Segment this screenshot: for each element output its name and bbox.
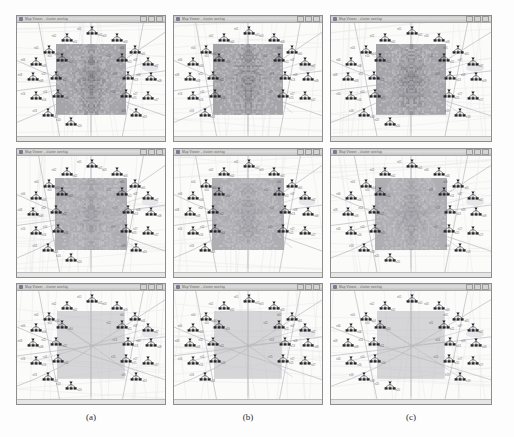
node-cluster-sublabel: n14: [43, 91, 47, 94]
node-cluster-sublabel: n18: [33, 374, 37, 377]
node-cluster-sublabel: n12: [359, 73, 363, 76]
window-controls[interactable]: [297, 16, 320, 22]
node-cluster-sublabel: n08: [333, 209, 337, 212]
app-icon: [333, 150, 337, 154]
cluster-tree-icon: [285, 179, 299, 191]
node-cluster-sublabel: n10: [365, 55, 369, 58]
cluster-tree-icon: [49, 71, 63, 83]
node-cluster-sublabel: n10: [47, 322, 51, 325]
node-cluster-label: n09: [157, 80, 161, 83]
node-cluster-sublabel: n15: [111, 91, 115, 94]
node-cluster-label: n14: [381, 362, 385, 365]
cluster-tree-icon: [469, 72, 483, 84]
map-canvas[interactable]: n01n01n02n02n03n03n04n04n05n05n06n06n07n…: [174, 23, 322, 141]
maximize-icon[interactable]: [474, 149, 481, 155]
node-cluster-sublabel: n16: [336, 228, 340, 231]
window-controls[interactable]: [140, 16, 163, 22]
cluster-tree-icon: [29, 356, 43, 368]
cluster-tree-icon: [357, 372, 371, 384]
node-cluster-label: n18: [211, 251, 215, 254]
window-controls[interactable]: [466, 284, 489, 290]
node-cluster-sublabel: n07: [290, 325, 294, 328]
maximize-icon[interactable]: [148, 16, 155, 22]
cluster-tree-icon: [115, 187, 129, 199]
cluster-tree-icon: [378, 301, 392, 313]
column-caption-c: (c): [330, 412, 492, 422]
window-controls[interactable]: [297, 284, 320, 290]
minimize-icon[interactable]: [466, 284, 473, 290]
cluster-tree-icon: [437, 53, 451, 65]
app-icon: [19, 17, 23, 21]
map-canvas[interactable]: n01n01n02n02n03n03n04n04n05n05n06n06n07n…: [331, 156, 491, 277]
map-canvas[interactable]: n01n01n02n02n03n03n04n04n05n05n06n06n07n…: [331, 23, 491, 141]
close-icon[interactable]: [156, 284, 163, 290]
minimize-icon[interactable]: [297, 16, 304, 22]
cluster-tree-icon: [41, 372, 55, 384]
map-canvas[interactable]: n01n01n02n02n03n03n04n04n05n05n06n06n07n…: [174, 156, 322, 277]
close-icon[interactable]: [313, 284, 320, 290]
minimize-icon[interactable]: [466, 16, 473, 22]
node-cluster-sublabel: n15: [268, 226, 272, 229]
cluster-tree-icon: [121, 205, 135, 217]
node-cluster-label: n11: [285, 195, 289, 198]
minimize-icon[interactable]: [140, 284, 147, 290]
cluster-tree-icon: [242, 26, 256, 38]
maximize-icon[interactable]: [474, 284, 481, 290]
maximize-icon[interactable]: [305, 284, 312, 290]
cluster-tree-icon: [378, 33, 392, 45]
maximize-icon[interactable]: [148, 284, 155, 290]
map-canvas[interactable]: n01n01n02n02n03n03n04n04n05n05n06n06n07n…: [174, 291, 322, 404]
node-cluster-label: n19: [142, 116, 146, 119]
minimize-icon[interactable]: [297, 149, 304, 155]
window-title: Map Viewer - cluster overlay: [25, 285, 140, 289]
node-cluster-sublabel: n15: [434, 356, 438, 359]
window-controls[interactable]: [140, 284, 163, 290]
screenshot-panel-r3c1: Map Viewer - cluster overlayn01n01n02n02…: [16, 283, 166, 405]
minimize-icon[interactable]: [140, 149, 147, 155]
map-canvas[interactable]: n01n01n02n02n03n03n04n04n05n05n06n06n07n…: [331, 291, 491, 404]
close-icon[interactable]: [482, 284, 489, 290]
window-controls[interactable]: [466, 149, 489, 155]
minimize-icon[interactable]: [466, 149, 473, 155]
window-controls[interactable]: [140, 149, 163, 155]
node-cluster-sublabel: n14: [43, 356, 47, 359]
node-cluster-sublabel: n02: [209, 35, 213, 38]
cluster-tree-icon: [60, 33, 74, 45]
close-icon[interactable]: [313, 16, 320, 22]
node-cluster-label: n05: [298, 187, 302, 190]
node-cluster-label: n09: [157, 215, 161, 218]
node-cluster-sublabel: n06: [21, 59, 25, 62]
node-cluster-label: n20: [77, 389, 81, 392]
node-cluster-label: n14: [221, 97, 225, 100]
node-cluster-label: n11: [128, 328, 132, 331]
node-cluster-label: n09: [482, 346, 486, 349]
cluster-tree-icon: [442, 354, 456, 366]
map-canvas[interactable]: n01n01n02n02n03n03n04n04n05n05n06n06n07n…: [17, 291, 165, 404]
app-icon: [176, 285, 180, 289]
maximize-icon[interactable]: [305, 16, 312, 22]
close-icon[interactable]: [156, 149, 163, 155]
node-cluster-sublabel: n09: [293, 74, 297, 77]
maximize-icon[interactable]: [305, 149, 312, 155]
close-icon[interactable]: [482, 16, 489, 22]
map-canvas[interactable]: n01n01n02n02n03n03n04n04n05n05n06n06n07n…: [17, 23, 165, 141]
cluster-tree-icon: [206, 337, 220, 349]
node-cluster-label: n08: [354, 80, 358, 83]
close-icon[interactable]: [156, 16, 163, 22]
minimize-icon[interactable]: [297, 284, 304, 290]
window-controls[interactable]: [297, 149, 320, 155]
minimize-icon[interactable]: [140, 16, 147, 22]
maximize-icon[interactable]: [474, 16, 481, 22]
map-canvas[interactable]: n01n01n02n02n03n03n04n04n05n05n06n06n07n…: [17, 156, 165, 277]
cluster-tree-icon: [242, 294, 256, 306]
node-cluster-sublabel: n11: [429, 322, 433, 325]
close-icon[interactable]: [313, 149, 320, 155]
window-controls[interactable]: [466, 16, 489, 22]
node-cluster-sublabel: n09: [136, 340, 140, 343]
close-icon[interactable]: [482, 149, 489, 155]
maximize-icon[interactable]: [148, 149, 155, 155]
node-cluster-sublabel: n13: [270, 339, 274, 342]
node-cluster-sublabel: n14: [360, 356, 364, 359]
node-cluster-label: n07: [479, 199, 483, 202]
node-cluster-sublabel: n01: [397, 28, 401, 31]
